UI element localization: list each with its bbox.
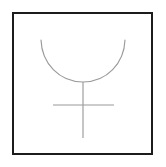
bowl-arc-path bbox=[41, 40, 125, 82]
figure-drawing bbox=[0, 0, 166, 167]
image-canvas bbox=[0, 0, 166, 167]
